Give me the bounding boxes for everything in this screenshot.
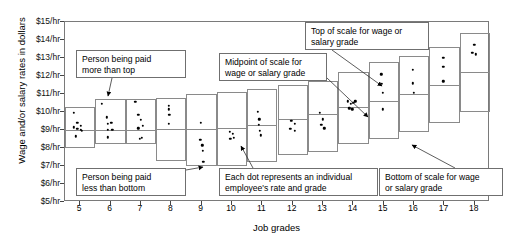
- annotation-less-than-bottom: Person being paid less than bottom: [76, 168, 186, 196]
- grade-midpoint-line: [217, 128, 247, 129]
- x-tick-mark: [383, 201, 384, 205]
- x-tick-mark: [261, 201, 262, 205]
- y-tick-label: $12/hr: [0, 70, 60, 80]
- annotation-each-dot: Each dot represents an individual employ…: [219, 168, 378, 196]
- x-tick-mark: [474, 201, 475, 205]
- annotation-midpoint-of-scale: Midpoint of scale for wage or salary gra…: [219, 53, 327, 81]
- y-tick-label: $13/hr: [0, 52, 60, 62]
- x-tick-mark: [352, 201, 353, 205]
- grade-range-box: [338, 72, 368, 144]
- grade-midpoint-line: [429, 85, 459, 86]
- grade-range-box: [65, 107, 95, 148]
- y-tick-label: $9/hr: [0, 124, 60, 134]
- grade-midpoint-line: [126, 130, 156, 131]
- x-tick-mark: [170, 201, 171, 205]
- x-tick-mark: [110, 201, 111, 205]
- x-tick-mark: [140, 201, 141, 205]
- annotation-top-of-scale: Top of scale for wage or salary grade: [305, 22, 429, 50]
- grade-midpoint-line: [460, 72, 490, 73]
- y-tick-label: $5/hr: [0, 196, 60, 206]
- grade-midpoint-line: [338, 107, 368, 108]
- x-tick-mark: [443, 201, 444, 205]
- grade-range-box: [308, 81, 338, 151]
- y-tick-label: $6/hr: [0, 178, 60, 188]
- annotation-bottom-of-scale: Bottom of scale for wage or salary grade: [379, 168, 503, 196]
- x-tick-mark: [292, 201, 293, 205]
- y-tick-label: $7/hr: [0, 160, 60, 170]
- y-tick-label: $11/hr: [0, 88, 60, 98]
- y-tick-mark: [60, 201, 64, 202]
- wage-scatter-chart: Wage and/or salary rates in dollars Job …: [0, 0, 507, 244]
- grade-midpoint-line: [308, 114, 338, 115]
- x-tick-mark: [201, 201, 202, 205]
- y-tick-label: $10/hr: [0, 106, 60, 116]
- y-tick-label: $15/hr: [0, 16, 60, 26]
- grade-midpoint-line: [156, 129, 186, 130]
- grade-midpoint-line: [186, 129, 216, 130]
- x-tick-mark: [413, 201, 414, 205]
- x-tick-mark: [79, 201, 80, 205]
- grade-midpoint-line: [247, 125, 277, 126]
- grade-midpoint-line: [399, 94, 429, 95]
- x-tick-mark: [231, 201, 232, 205]
- x-tick-mark: [322, 201, 323, 205]
- x-axis-title: Job grades: [64, 222, 489, 233]
- y-tick-label: $14/hr: [0, 34, 60, 44]
- y-tick-label: $8/hr: [0, 142, 60, 152]
- annotation-more-than-top: Person being paid more than top: [76, 50, 186, 78]
- grade-midpoint-line: [278, 119, 308, 120]
- grade-midpoint-line: [369, 101, 399, 102]
